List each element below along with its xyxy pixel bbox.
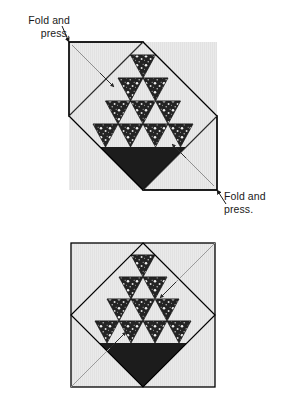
callout-bottom-right: Fold and press. bbox=[224, 190, 286, 215]
callout-top-left-line2: press. bbox=[8, 27, 70, 40]
callout-bottom-right-line1: Fold and bbox=[224, 190, 286, 203]
callout-bottom-right-line2: press. bbox=[224, 203, 286, 216]
callout-top-left-line1: Fold and bbox=[8, 14, 70, 27]
lower-figure bbox=[71, 243, 215, 391]
upper-figure bbox=[62, 26, 226, 204]
callout-top-left: Fold and press. bbox=[8, 14, 70, 39]
